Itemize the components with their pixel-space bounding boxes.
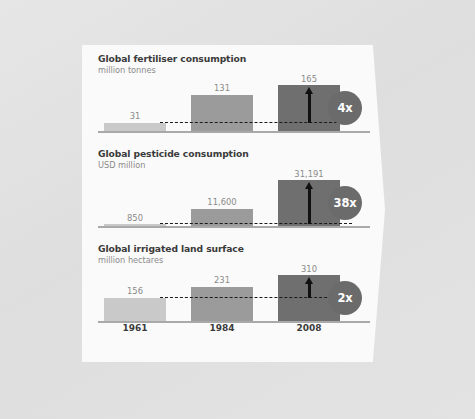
x-tick-2008: 2008 — [274, 323, 344, 333]
value-label-1961: 850 — [100, 213, 170, 223]
growth-arrow — [305, 182, 314, 224]
chart-title: Global fertiliser consumption — [98, 53, 246, 64]
x-axis-labels: 1961 1984 2008 — [98, 323, 370, 339]
axis-baseline — [98, 131, 370, 133]
reference-dashed-line — [160, 223, 352, 224]
growth-arrow — [305, 87, 314, 122]
arrow-head-icon — [305, 182, 313, 189]
plot-area: 156 231 310 2x — [98, 265, 370, 323]
arrow-shaft — [308, 282, 310, 298]
value-label-2008: 165 — [274, 74, 344, 84]
multiplier-badge: 38x — [328, 186, 362, 220]
value-label-2008: 310 — [274, 264, 344, 274]
value-label-1984: 231 — [187, 275, 257, 285]
panel-content: Global fertiliser consumption million to… — [82, 45, 385, 362]
bar-1961 — [104, 298, 166, 321]
value-label-2008: 31,191 — [274, 169, 344, 179]
chart-subtitle: USD million — [98, 160, 145, 170]
infographic-panel: Global fertiliser consumption million to… — [82, 45, 385, 362]
plot-area: 850 11,600 31,191 38x — [98, 170, 370, 228]
growth-arrow — [305, 277, 314, 298]
bar-1961 — [104, 123, 166, 132]
chart-title: Global pesticide consumption — [98, 148, 249, 159]
reference-dashed-line — [160, 297, 352, 298]
value-label-1984: 131 — [187, 83, 257, 93]
multiplier-badge: 4x — [328, 91, 362, 125]
reference-dashed-line — [160, 122, 352, 123]
chart-subtitle: million hectares — [98, 255, 163, 265]
value-label-1961: 156 — [100, 286, 170, 296]
x-tick-1984: 1984 — [187, 323, 257, 333]
chart-subtitle: million tonnes — [98, 65, 156, 75]
plot-area: 31 131 165 4x — [98, 75, 370, 133]
axis-baseline — [98, 226, 370, 228]
arrow-head-icon — [305, 277, 313, 284]
x-tick-1961: 1961 — [100, 323, 170, 333]
value-label-1984: 11,600 — [187, 197, 257, 207]
multiplier-badge: 2x — [328, 281, 362, 315]
value-label-1961: 31 — [100, 111, 170, 121]
arrow-shaft — [308, 92, 310, 122]
arrow-shaft — [308, 187, 310, 224]
chart-title: Global irrigated land surface — [98, 243, 244, 254]
bar-1984 — [191, 287, 253, 321]
bar-1984 — [191, 95, 253, 132]
arrow-head-icon — [305, 87, 313, 94]
